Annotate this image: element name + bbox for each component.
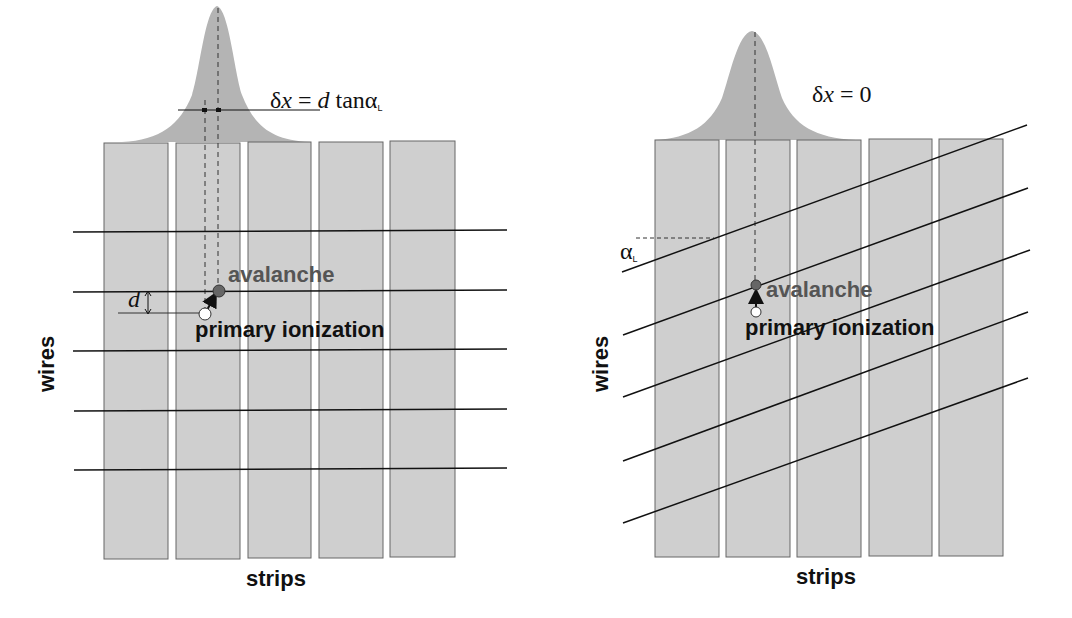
right-avalanche-label: avalanche bbox=[766, 277, 872, 302]
right-avalanche-dot bbox=[751, 280, 761, 290]
right-delta-x-formula: δx = 0 bbox=[812, 81, 872, 107]
left-primary-ionization-label: primary ionization bbox=[195, 317, 384, 342]
strip bbox=[797, 140, 861, 557]
strip bbox=[655, 140, 719, 557]
left-avalanche-label: avalanche bbox=[228, 262, 334, 287]
left-strips-label: strips bbox=[246, 566, 306, 591]
left-wires-label: wires bbox=[34, 336, 59, 393]
right-alpha-label: αL bbox=[620, 238, 638, 264]
left-panel: d avalanche primary ionization wires str… bbox=[34, 6, 507, 591]
left-delta-x-formula: δx = d tanαL bbox=[270, 87, 382, 113]
strip bbox=[869, 139, 932, 556]
right-primary-ionization-label: primary ionization bbox=[745, 315, 934, 340]
right-strips-label: strips bbox=[796, 564, 856, 589]
left-d-label: d bbox=[128, 286, 141, 312]
right-strips bbox=[655, 139, 1003, 557]
left-avalanche-dot bbox=[213, 285, 225, 297]
strip bbox=[939, 139, 1003, 556]
right-panel: avalanche primary ionization wires strip… bbox=[588, 31, 1030, 589]
lorentz-angle-diagram: d avalanche primary ionization wires str… bbox=[0, 0, 1072, 618]
left-gaussian-signal bbox=[122, 6, 310, 142]
right-wires-label: wires bbox=[588, 336, 613, 393]
